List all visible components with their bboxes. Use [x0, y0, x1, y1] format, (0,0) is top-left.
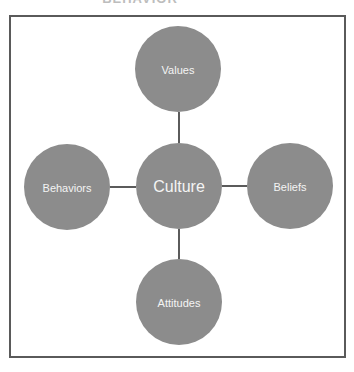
label-behaviors: Behaviors	[43, 182, 92, 194]
label-culture: Culture	[153, 178, 205, 196]
label-values: Values	[162, 64, 195, 76]
label-attitudes: Attitudes	[158, 297, 201, 309]
label-beliefs: Beliefs	[273, 181, 306, 193]
